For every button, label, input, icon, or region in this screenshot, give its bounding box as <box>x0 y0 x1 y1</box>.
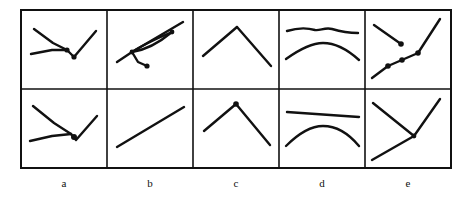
a-bottom-vertex-dot <box>71 134 77 140</box>
column-label-d: d <box>302 177 342 190</box>
e-top-zigzag-dot-2 <box>399 57 405 63</box>
column-label-e: e <box>388 177 428 190</box>
line-sketch-figure <box>0 0 472 201</box>
b-top-branch-dot <box>144 63 149 68</box>
e-top-zigzag-dot-3 <box>415 50 421 56</box>
e-top-upper-stroke-dot <box>398 41 404 47</box>
column-label-a: a <box>44 177 84 190</box>
a-top-junction-dot <box>64 47 69 52</box>
column-label-c: c <box>216 177 256 190</box>
a-top-vertex-dot <box>71 54 76 59</box>
e-top-zigzag-dot-1 <box>385 63 391 69</box>
c-bottom-apex-dot <box>233 101 239 107</box>
b-top-lens-right-dot <box>170 30 175 35</box>
figure-container: a b c d e <box>0 0 472 201</box>
e-bottom-vertex-dot <box>412 134 417 139</box>
b-top-lens-left-dot <box>130 50 135 55</box>
column-label-b: b <box>130 177 170 190</box>
